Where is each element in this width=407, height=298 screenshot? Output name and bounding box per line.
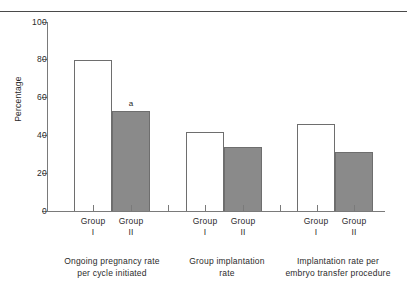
x-axis-tick-mark	[317, 205, 318, 211]
x-axis-label-group1-series2: Group II	[108, 216, 154, 238]
x-axis-label-line1: Group	[81, 216, 106, 226]
x-axis-label-group3-series2: Group II	[331, 216, 377, 238]
x-axis-tick-mark	[280, 205, 281, 211]
group-caption-line2: per cycle initiated	[77, 268, 146, 278]
x-axis-tick-mark	[168, 205, 169, 211]
group-caption-2: Group implantation rate	[172, 255, 282, 279]
group-caption-line2: embryo transfer procedure	[285, 268, 390, 278]
x-axis-label-line2: II	[331, 227, 377, 238]
x-axis-label-line2: II	[220, 227, 266, 238]
y-axis-tick-label: 20	[9, 168, 47, 178]
x-axis-tick-mark	[131, 205, 132, 211]
y-axis-tick-group-100: 100	[0, 22, 47, 23]
top-divider-rule	[0, 11, 407, 12]
x-axis-label-line1: Group	[231, 216, 256, 226]
bar-group2-series2	[224, 147, 262, 211]
bar-annotation-a: a	[124, 99, 138, 108]
x-axis-tick-mark	[93, 205, 94, 211]
x-axis-label-line1: Group	[342, 216, 367, 226]
bar-group3-series2	[335, 152, 373, 211]
bar-group2-series1	[186, 132, 224, 211]
y-axis-title: Percentage	[13, 59, 23, 139]
y-axis-tick-group-20: 20	[0, 173, 47, 174]
figure-chart: 0 20 40 60 80 100 Percentage a	[0, 0, 407, 298]
y-axis-tick-label: 0	[9, 206, 47, 216]
y-axis-tick-group-0: 0	[0, 211, 47, 212]
x-axis-label-line1: Group	[193, 216, 218, 226]
x-axis-label-line1: Group	[119, 216, 144, 226]
y-axis-tick-group-40: 40	[0, 135, 47, 136]
x-axis-tick-mark	[354, 205, 355, 211]
y-axis-tick-group-60: 60	[0, 97, 47, 98]
group-caption-3: Implantation rate per embryo transfer pr…	[272, 255, 404, 279]
y-axis-tick-group-80: 80	[0, 59, 47, 60]
x-axis-label-line1: Group	[304, 216, 329, 226]
group-caption-1: Ongoing pregnancy rate per cycle initiat…	[44, 255, 180, 279]
y-axis-tick-label: 100	[9, 17, 47, 27]
x-axis-tick-mark	[205, 205, 206, 211]
x-axis-line	[47, 211, 385, 212]
group-caption-line1: Ongoing pregnancy rate	[64, 256, 160, 266]
bar-group1-series1	[74, 60, 112, 211]
group-caption-line2: rate	[219, 268, 234, 278]
plot-area: a	[47, 22, 385, 211]
group-caption-line1: Implantation rate per	[297, 256, 379, 266]
group-caption-line1: Group implantation	[189, 256, 264, 266]
x-axis-tick-mark	[243, 205, 244, 211]
bar-group3-series1	[297, 124, 335, 211]
bar-group1-series2	[112, 111, 150, 211]
x-axis-label-line2: II	[108, 227, 154, 238]
x-axis-label-group2-series2: Group II	[220, 216, 266, 238]
